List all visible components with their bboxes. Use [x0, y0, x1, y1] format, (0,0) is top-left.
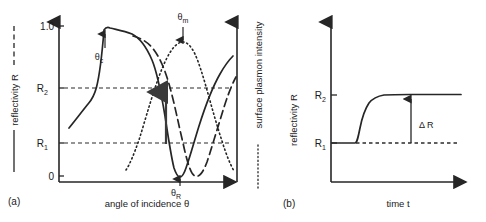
panel-a-ticklabel-r1: R1 — [37, 138, 48, 151]
panel-b-curve-step — [332, 95, 461, 144]
panel-a-xlabel: angle of incidence θ — [105, 198, 190, 209]
panel-b-ylabel-left: reflectivity R — [288, 94, 299, 146]
panel-b-xlabel: time t — [386, 198, 410, 209]
theta-m-label: θm — [178, 12, 189, 24]
panel-b-id: (b) — [283, 198, 295, 209]
panel-a-id: (a) — [8, 196, 20, 207]
panel-b: reflectivity R R2 R1 Δ R (b) time t — [283, 22, 466, 209]
panel-a-ylabel-left: reflectivity R — [9, 74, 20, 126]
panel-a-ticklabel-1: 1.0 — [40, 21, 54, 32]
panel-a-ticklabel-r2: R2 — [37, 83, 48, 96]
panel-a: reflectivity R surface plasmon intensity… — [8, 12, 264, 209]
panel-a-curve-dotted — [126, 42, 234, 171]
spr-figure: reflectivity R surface plasmon intensity… — [0, 0, 486, 222]
panel-a-ylabel-right: surface plasmon intensity — [253, 21, 264, 128]
panel-a-ticklabel-0: 0 — [48, 171, 54, 182]
figure-canvas: reflectivity R surface plasmon intensity… — [0, 0, 486, 222]
panel-b-ticklabel-r2: R2 — [315, 90, 326, 103]
delta-r-label: Δ R — [419, 120, 434, 130]
panel-b-ticklabel-r1: R1 — [315, 138, 326, 151]
